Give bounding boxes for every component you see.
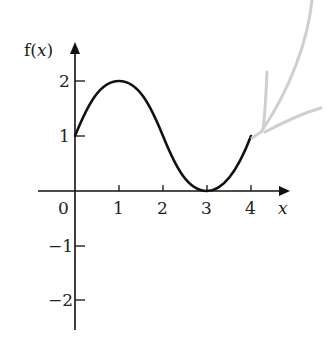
x-tick-label-2: 2 (157, 198, 168, 218)
y-tick-label-neg2: −2 (48, 290, 73, 310)
function-graph: f(x) x 0 1 2 3 4 2 1 −1 −2 (0, 0, 334, 339)
x-axis-arrow-icon (279, 186, 290, 196)
x-tick-label-4: 4 (245, 198, 256, 218)
y-tick-label-2: 2 (59, 71, 70, 91)
origin-label: 0 (58, 198, 69, 218)
y-axis-arrow-icon (70, 42, 80, 54)
y-tick-label-1: 1 (59, 126, 70, 146)
y-tick-label-neg1: −1 (48, 236, 73, 256)
y-axis-label: f(x) (24, 40, 53, 60)
x-tick-label-1: 1 (113, 198, 124, 218)
x-axis-label: x (278, 198, 288, 218)
x-ticks (119, 185, 251, 191)
x-tick-label-3: 3 (201, 198, 212, 218)
annotation-arrow-icon (252, 0, 321, 138)
function-curve (75, 81, 251, 191)
